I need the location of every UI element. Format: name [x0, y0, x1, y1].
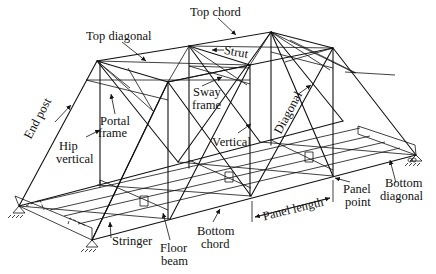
label-bottom-diag: Bottom: [385, 177, 423, 189]
label-hip: Hip: [59, 140, 78, 152]
label-floor: Floor: [160, 242, 187, 254]
label-panel-point: point: [345, 196, 371, 208]
label-vertical: Vertical: [212, 136, 251, 148]
label-strut: Strut: [223, 44, 249, 60]
label-sway-frame: frame: [192, 99, 221, 111]
top-bracing: [86, 32, 395, 111]
label-floor-beam: beam: [161, 255, 188, 267]
label-stringer: Stringer: [112, 235, 152, 247]
label-portal-frame: frame: [98, 127, 127, 139]
label-top-chord: Top chord: [190, 6, 241, 18]
truss-bridge-diagram: Top chord Top diagonal Strut Sway frame …: [0, 0, 436, 274]
label-bottom: Bottom: [197, 225, 235, 237]
label-sway: Sway: [193, 86, 221, 98]
label-panel: Panel: [343, 183, 371, 195]
label-bottom-chord: chord: [201, 238, 229, 250]
label-top-diagonal: Top diagonal: [86, 30, 151, 42]
label-bottom-diagonal: diagonal: [380, 190, 423, 202]
label-hip-vertical: vertical: [56, 153, 93, 165]
